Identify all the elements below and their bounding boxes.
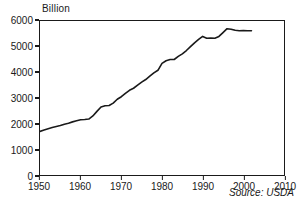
y-axis-unit-label: Billion (42, 3, 70, 14)
plot-area (39, 20, 285, 176)
x-axis-tick-mark (38, 176, 39, 180)
x-axis-tick: 1960 (69, 176, 91, 192)
x-axis-tick-mark (202, 176, 203, 180)
x-axis-tick-mark (120, 176, 121, 180)
x-axis-tick-mark (161, 176, 162, 180)
y-axis-tick-label: 6000 (11, 16, 33, 26)
x-axis-tick-label: 1960 (69, 182, 91, 192)
y-axis-tick-label: 3000 (11, 94, 33, 104)
x-axis-tick-label: 1950 (28, 182, 50, 192)
chart-screenshot: Billion 0100020003000400050006000 195019… (0, 0, 302, 205)
x-axis-tick: 1990 (192, 176, 214, 192)
x-axis-tick: 1970 (110, 176, 132, 192)
y-axis-tick-label: 2000 (11, 120, 33, 130)
source-annotation: Source: USDA (229, 187, 294, 198)
y-axis-tick-label: 5000 (11, 42, 33, 52)
x-axis-tick-mark (79, 176, 80, 180)
x-axis-tick-label: 1990 (192, 182, 214, 192)
data-series-line (40, 29, 251, 132)
y-axis-tick-label: 4000 (11, 68, 33, 78)
x-axis-tick: 1950 (28, 176, 50, 192)
data-line-svg (40, 21, 284, 175)
x-axis-tick-label: 1980 (151, 182, 173, 192)
y-axis-tick-label: 1000 (11, 146, 33, 156)
x-axis-tick-mark (284, 176, 285, 180)
x-axis-tick: 1980 (151, 176, 173, 192)
x-axis-tick-label: 1970 (110, 182, 132, 192)
x-axis-tick-mark (243, 176, 244, 180)
y-axis: 0100020003000400050006000 (0, 20, 39, 176)
